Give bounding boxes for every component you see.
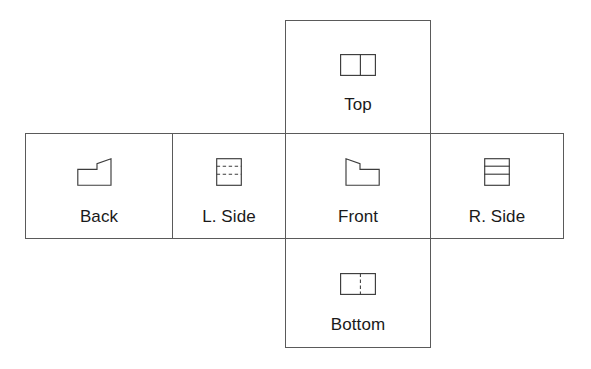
left-side-view-figure [173, 158, 285, 186]
view-cell-bottom: Bottom [285, 238, 431, 348]
stepped-profile-rising-right-icon [77, 158, 121, 186]
front-view-figure [286, 158, 430, 186]
right-side-view-figure [431, 158, 563, 186]
square-with-two-solid-horizontal-lines-icon [484, 158, 510, 186]
rectangle-with-solid-vertical-divider-icon [340, 54, 376, 76]
bottom-view-figure [286, 273, 430, 295]
top-view-figure [286, 54, 430, 76]
view-label-right-side: R. Side [469, 208, 525, 225]
view-cell-left-side: L. Side [172, 133, 286, 239]
view-label-left-side: L. Side [202, 208, 256, 225]
view-cell-right-side: R. Side [430, 133, 564, 239]
view-label-bottom: Bottom [331, 316, 385, 333]
back-view-figure [26, 158, 172, 186]
view-cell-back: Back [25, 133, 173, 239]
rectangle-with-dashed-vertical-divider-icon [340, 273, 376, 295]
view-label-top: Top [344, 96, 372, 113]
view-label-front: Front [338, 208, 378, 225]
orthographic-projection-sheet: Top Back L. Side Fro [0, 0, 591, 369]
view-label-back: Back [80, 208, 118, 225]
stepped-profile-descending-right-icon [336, 158, 380, 186]
view-cell-top: Top [285, 20, 431, 134]
view-cell-front: Front [285, 133, 431, 239]
square-with-two-dashed-horizontal-lines-icon [216, 158, 242, 186]
